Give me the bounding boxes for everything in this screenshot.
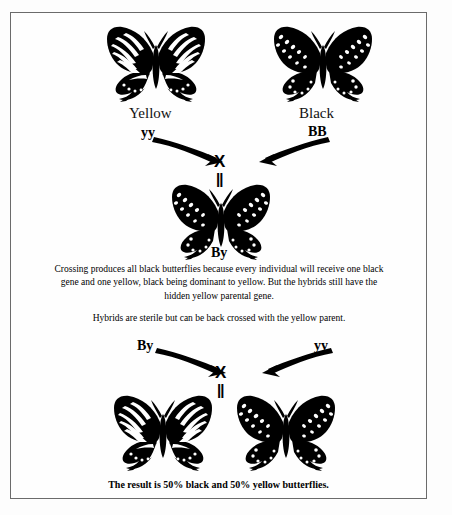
yellow-swallowtail-butterfly-icon xyxy=(96,23,216,103)
cross-two-symbol: X xyxy=(215,364,226,381)
offspring-yellow-butterfly-icon xyxy=(103,391,223,473)
black-swallowtail-butterfly-icon xyxy=(263,23,383,103)
parent-right-phenotype-label: Black xyxy=(299,105,334,122)
parent-left-phenotype-label: Yellow xyxy=(129,105,172,122)
cross-one-symbol: X xyxy=(214,153,225,170)
offspring-black-butterfly-icon xyxy=(226,391,346,473)
cross-two-arrows xyxy=(154,344,334,383)
diagram-border-frame: Yellow xyxy=(10,12,427,499)
offspring-genotype-label: By xyxy=(211,245,227,261)
cross-one-arrows xyxy=(151,133,331,172)
genetics-diagram-page: Yellow xyxy=(0,0,452,515)
backcross-left-genotype-label: By xyxy=(137,338,153,354)
explanation-paragraph-1: Crossing produces all black butterflies … xyxy=(49,263,389,303)
result-caption: The result is 50% black and 50% yellow b… xyxy=(11,479,426,490)
explanation-paragraph-2: Hybrids are sterile but can be back cros… xyxy=(49,312,389,325)
